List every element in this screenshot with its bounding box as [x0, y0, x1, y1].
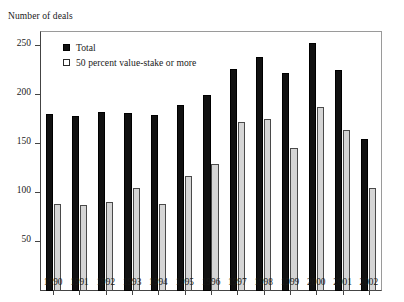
legend-label: 50 percent value-stake or more — [76, 57, 196, 68]
x-axis-tick-label: 1997 — [228, 277, 247, 287]
bar-total — [203, 95, 210, 291]
filled-square-icon — [63, 44, 70, 51]
x-axis-tick-mark — [237, 291, 238, 295]
x-axis-tick-label: 1994 — [149, 277, 168, 287]
bar-stake — [343, 130, 350, 291]
x-axis-tick-mark — [264, 291, 265, 295]
x-axis-tick-mark — [132, 291, 133, 295]
y-axis-title: Number of deals — [8, 11, 73, 21]
x-axis-tick-mark — [53, 291, 54, 295]
bar-stake — [290, 148, 297, 291]
bar-stake — [211, 164, 218, 291]
x-axis-tick-label: 1995 — [175, 277, 194, 287]
bar-stake — [133, 188, 140, 291]
x-axis-tick-mark — [290, 291, 291, 295]
x-axis-tick-label: 1992 — [96, 277, 115, 287]
bar-stake — [185, 176, 192, 291]
bar-total — [361, 139, 368, 291]
x-axis-tick-label: 1993 — [123, 277, 142, 287]
chart-legend: Total 50 percent value-stake or more — [63, 40, 196, 70]
bar-total — [282, 73, 289, 291]
x-axis-tick-mark — [343, 291, 344, 295]
x-axis-tick-mark — [316, 291, 317, 295]
bar-stake — [317, 107, 324, 291]
x-axis-tick-label: 1999 — [281, 277, 300, 287]
x-axis-tick-label: 1990 — [44, 277, 63, 287]
bar-total — [98, 112, 105, 291]
legend-item-stake: 50 percent value-stake or more — [63, 55, 196, 70]
bar-stake — [264, 119, 271, 291]
bar-total — [256, 57, 263, 291]
x-axis-tick-mark — [158, 291, 159, 295]
hollow-square-icon — [63, 59, 70, 66]
bar-stake — [238, 122, 245, 291]
bar-total — [230, 69, 237, 291]
y-axis-tick-label: 200 — [17, 87, 31, 97]
bar-total — [151, 115, 158, 291]
x-axis-tick-label: 1996 — [202, 277, 221, 287]
bar-total — [124, 113, 131, 291]
bar-total — [46, 114, 53, 291]
x-axis-tick-mark — [106, 291, 107, 295]
x-axis-tick-label: 2002 — [360, 277, 379, 287]
x-axis-tick-mark — [211, 291, 212, 295]
bar-total — [72, 116, 79, 291]
y-axis-tick-label: 250 — [17, 38, 31, 48]
x-axis-tick-mark — [369, 291, 370, 295]
bars-layer — [40, 31, 382, 291]
legend-item-total: Total — [63, 40, 196, 55]
bar-total — [309, 43, 316, 291]
y-axis-tick-label: 150 — [17, 136, 31, 146]
bar-total — [177, 105, 184, 291]
y-axis-tick-label: 100 — [17, 185, 31, 195]
x-axis-tick-label: 1991 — [70, 277, 89, 287]
x-axis-tick-label: 2001 — [333, 277, 352, 287]
y-axis-tick-label: 50 — [22, 234, 32, 244]
x-axis-tick-mark — [185, 291, 186, 295]
x-axis-tick-mark — [79, 291, 80, 295]
bar-chart: Number of deals 50100150200250 199019911… — [0, 0, 404, 302]
bar-total — [335, 70, 342, 291]
x-axis-tick-label: 2000 — [307, 277, 326, 287]
x-axis-tick-label: 1998 — [254, 277, 273, 287]
legend-label: Total — [76, 42, 96, 53]
bar-stake — [369, 188, 376, 291]
